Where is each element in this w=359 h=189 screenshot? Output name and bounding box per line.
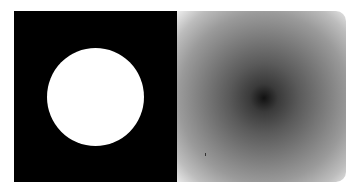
- radial-gradient-panel: [177, 11, 346, 182]
- black-square-panel: [14, 11, 177, 182]
- white-disk: [47, 48, 144, 146]
- radial-gradient-fill: [177, 11, 346, 182]
- noise-speck: [205, 153, 206, 156]
